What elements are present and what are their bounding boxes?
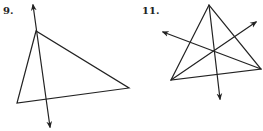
perpendicular-line-9 [33, 5, 50, 127]
figure-9 [17, 5, 129, 127]
diagram-canvas [0, 0, 263, 131]
figure-11 [163, 5, 261, 99]
triangle-9 [17, 31, 129, 103]
